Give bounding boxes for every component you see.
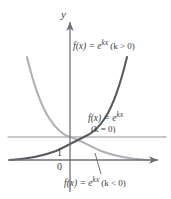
- equation-k-negative-function: f(x) = e: [64, 178, 93, 188]
- equation-k-positive-condition: (k > 0): [110, 41, 135, 51]
- leader-line-to-decay-curve: [95, 153, 101, 174]
- equation-label-k-positive: f(x) = ekx (k > 0): [73, 39, 135, 52]
- y-axis-label: y: [61, 8, 66, 21]
- decay-curve-k-less-than-zero: [27, 57, 147, 160]
- graph-canvas: [0, 0, 171, 199]
- equation-k-positive-function: f(x) = e: [73, 41, 102, 51]
- exponential-function-figure: y 1 0 f(x) = ekx (k > 0) f(x) = ekx (k =…: [0, 0, 171, 199]
- equation-k-positive-exponent: kx: [102, 39, 109, 47]
- equation-label-k-negative: f(x) = ekx (k < 0): [64, 176, 126, 189]
- equation-label-k-zero: f(x) = ekx (k = 0): [88, 111, 123, 134]
- equation-k-zero-condition: (k = 0): [88, 124, 123, 134]
- y-tick-label-one: 1: [57, 147, 62, 159]
- equation-k-negative-condition: (k < 0): [101, 178, 126, 188]
- equation-k-negative-exponent: kx: [93, 176, 100, 184]
- equation-k-zero-exponent: kx: [117, 111, 124, 119]
- equation-k-zero-function: f(x) = e: [88, 113, 117, 123]
- growth-curve-k-greater-than-zero: [10, 57, 127, 160]
- origin-label-zero: 0: [57, 161, 62, 173]
